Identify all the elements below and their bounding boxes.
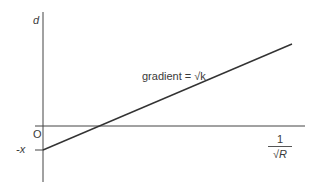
linear-relationship-line <box>43 44 292 150</box>
x-axis-label-numerator: 1 <box>268 133 292 145</box>
intercept-label: -x <box>16 143 25 155</box>
y-axis-label: d <box>33 14 39 26</box>
fraction-bar <box>268 146 292 147</box>
x-axis-label-denominator: √R <box>268 148 292 160</box>
origin-label: O <box>33 128 42 140</box>
x-axis-label: 1 √R <box>268 133 292 160</box>
graph-canvas <box>0 0 318 193</box>
gradient-annotation: gradient = √k <box>142 70 206 82</box>
